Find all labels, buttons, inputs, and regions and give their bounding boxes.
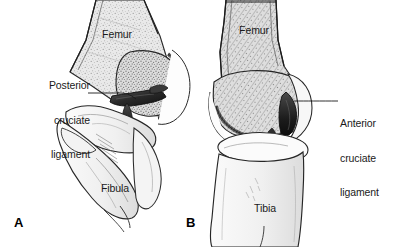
acl-callout-line-3: ligament	[340, 187, 400, 199]
panel-letter-b: B	[186, 217, 195, 229]
posterior-cruciate-ligament-callout: Posterior cruciate ligament	[4, 57, 90, 184]
femur-label-panel-a: Femur	[90, 29, 144, 41]
knee-ligament-figure: Posterior cruciate ligament Anterior cru…	[0, 0, 402, 247]
tibia-label-panel-b: Tibia	[238, 203, 292, 215]
anterior-cruciate-ligament-callout: Anterior cruciate ligament	[340, 95, 400, 222]
fibula-label-panel-a: Fibula	[88, 183, 142, 195]
pcl-callout-line-1: Posterior	[4, 80, 90, 92]
panel-letter-a: A	[14, 217, 23, 229]
acl-callout-line-1: Anterior	[340, 118, 400, 130]
tibia-b-shaft	[211, 152, 304, 247]
tibia-a-body	[133, 128, 161, 209]
pcl-callout-line-2: cruciate	[4, 115, 90, 127]
femur-label-panel-b: Femur	[227, 25, 281, 37]
pcl-callout-line-3: ligament	[4, 149, 90, 161]
acl-callout-line-2: cruciate	[340, 153, 400, 165]
